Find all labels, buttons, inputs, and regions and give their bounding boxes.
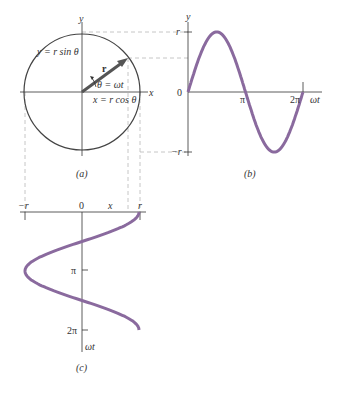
panel-a-caption: (a) (76, 168, 88, 180)
c-2pi-tick: 2π (67, 325, 77, 336)
panel-b-caption: (b) (244, 168, 256, 180)
b-y-label: y (185, 11, 191, 22)
panel-c-caption: (c) (76, 362, 88, 374)
c-zero-label: 0 (79, 200, 84, 211)
b-origin: 0 (177, 87, 182, 98)
panel-a-y-label: y (78, 13, 84, 24)
theta-equation: θ = ωt (97, 79, 124, 90)
projection-lines (25, 32, 188, 212)
c-r-label: r (138, 200, 142, 211)
b-2pi-tick: 2π (290, 94, 300, 105)
panel-b-sine-graph (184, 22, 322, 156)
phasor-diagram: y x r y = r sin θ θ = ωt x = r cos θ (a)… (0, 0, 340, 394)
b-pi-tick: π (240, 94, 245, 105)
c-t-label: ωt (85, 341, 95, 352)
vector-r-label: r (102, 63, 107, 74)
x-equation: x = r cos θ (92, 94, 136, 105)
y-equation: y = r sin θ (36, 46, 79, 57)
panel-a-circle-diagram (20, 22, 148, 156)
panel-c-cosine-graph (20, 212, 146, 352)
c-x-label: x (107, 200, 113, 211)
b-neg-r-tick: −r (171, 146, 182, 157)
b-x-label: ωt (310, 94, 320, 105)
c-pi-tick: π (71, 265, 76, 276)
b-r-tick: r (176, 26, 180, 37)
panel-a-x-label: x (148, 87, 154, 98)
c-neg-r-label: −r (18, 200, 29, 211)
